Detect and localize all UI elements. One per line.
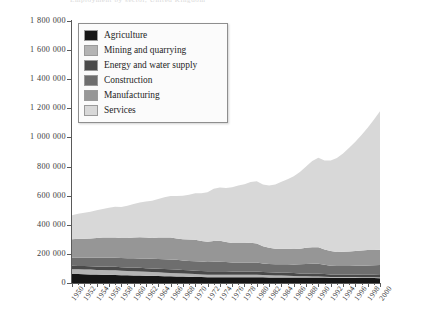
legend-swatch-services [84,105,98,116]
x-axis-minor-tick-mark [251,283,252,285]
legend-item-agriculture: Agriculture [84,28,222,43]
y-axis-tick-label: 0 [4,278,66,287]
legend-item-mining-and-quarrying: Mining and quarrying [84,43,222,58]
x-axis-minor-tick-mark [226,283,227,285]
legend-item-label: Manufacturing [104,90,160,101]
legend-swatch-energy-and-water-supply [84,60,98,71]
chart-legend: AgricultureMining and quarryingEnergy an… [78,23,228,123]
legend-item-label: Agriculture [104,30,147,41]
x-axis-minor-tick-mark [140,283,141,285]
x-axis-tick-mark [109,283,110,287]
x-axis-minor-tick-mark [337,283,338,285]
x-axis-minor-tick-mark [275,283,276,285]
x-axis-minor-tick-mark [325,283,326,285]
x-axis-minor-tick-mark [103,283,104,285]
x-axis-tick-mark [146,283,147,287]
x-axis-minor-tick-mark [90,283,91,285]
legend-item-services: Services [84,103,222,118]
x-axis-minor-tick-mark [374,283,375,285]
x-axis-minor-tick-mark [312,283,313,285]
area-band-services [72,111,380,252]
x-axis-tick-mark [281,283,282,287]
y-axis-labels: 1 800 0001 600 0001 400 0001 200 0001 00… [0,0,66,300]
x-axis-tick-mark [331,283,332,287]
x-axis-tick-mark [171,283,172,287]
x-axis-minor-tick-mark [152,283,153,285]
x-axis-minor-tick-mark [164,283,165,285]
y-axis-tick-label: 1 800 000 [4,16,66,25]
y-axis-tick-mark [67,79,72,80]
x-axis-tick-mark [269,283,270,287]
x-axis-tick-mark [294,283,295,287]
legend-item-energy-and-water-supply: Energy and water supply [84,58,222,73]
y-axis-tick-label: 600 000 [4,191,66,200]
x-axis-tick-mark [121,283,122,287]
x-axis-tick-mark [195,283,196,287]
x-axis-tick-mark [183,283,184,287]
legend-item-label: Construction [104,75,152,86]
x-axis-minor-tick-mark [115,283,116,285]
figure-container: Employment by sector, United Kingdom 1 8… [0,0,423,327]
x-axis-minor-tick-mark [201,283,202,285]
x-axis-tick-mark [97,283,98,287]
x-axis-tick-mark [134,283,135,287]
legend-swatch-construction [84,75,98,86]
legend-item-manufacturing: Manufacturing [84,88,222,103]
x-axis-tick-mark [220,283,221,287]
x-axis-minor-tick-mark [78,283,79,285]
x-axis-minor-tick-mark [189,283,190,285]
y-axis-tick-mark [67,108,72,109]
x-axis-tick-mark [368,283,369,287]
y-axis-tick-mark [67,283,72,284]
x-axis-tick-mark [355,283,356,287]
y-axis-tick-label: 400 000 [4,220,66,229]
x-axis-minor-tick-mark [300,283,301,285]
legend-item-label: Services [104,105,136,116]
y-axis-tick-mark [67,21,72,22]
y-axis-tick-label: 1 200 000 [4,103,66,112]
y-axis-tick-label: 1 400 000 [4,74,66,83]
y-axis-tick-mark [67,196,72,197]
legend-swatch-agriculture [84,30,98,41]
x-axis-tick-mark [244,283,245,287]
x-axis-tick-mark [257,283,258,287]
x-axis-minor-tick-mark [214,283,215,285]
x-axis-minor-tick-mark [127,283,128,285]
x-axis-minor-tick-mark [349,283,350,285]
x-axis-tick-mark [72,283,73,287]
x-axis-minor-tick-mark [288,283,289,285]
y-axis-tick-mark [67,50,72,51]
x-axis-minor-tick-mark [362,283,363,285]
x-axis-tick-mark [318,283,319,287]
legend-item-construction: Construction [84,73,222,88]
x-axis-minor-tick-mark [238,283,239,285]
x-axis-tick-mark [343,283,344,287]
y-axis-tick-label: 800 000 [4,162,66,171]
x-axis-tick-mark [208,283,209,287]
x-axis-minor-tick-mark [177,283,178,285]
legend-swatch-mining-and-quarrying [84,45,98,56]
y-axis-tick-label: 1 000 000 [4,132,66,141]
y-axis-tick-label: 1 600 000 [4,45,66,54]
x-axis-tick-mark [84,283,85,287]
y-axis-tick-mark [67,137,72,138]
x-axis-tick-mark [380,283,381,287]
y-axis-tick-mark [67,225,72,226]
legend-swatch-manufacturing [84,90,98,101]
y-axis-tick-label: 200 000 [4,249,66,258]
y-axis-tick-mark [67,254,72,255]
clipped-header-text: Employment by sector, United Kingdom [70,0,370,4]
legend-item-label: Mining and quarrying [104,45,186,56]
x-axis-minor-tick-mark [263,283,264,285]
legend-item-label: Energy and water supply [104,60,197,71]
x-axis-tick-mark [158,283,159,287]
y-axis-tick-mark [67,167,72,168]
x-axis-tick-mark [232,283,233,287]
x-axis-tick-mark [306,283,307,287]
